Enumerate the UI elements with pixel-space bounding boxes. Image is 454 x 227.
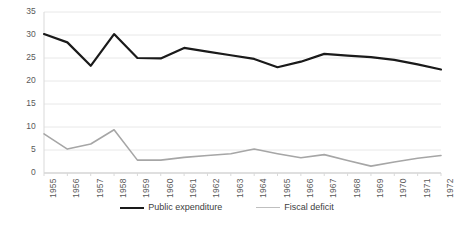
legend-item[interactable]: Fiscal deficit xyxy=(256,203,334,212)
legend-label: Fiscal deficit xyxy=(284,203,334,212)
series-line-fiscal-deficit xyxy=(44,130,441,166)
legend-line-swatch xyxy=(120,207,144,209)
series-line-public-expenditure xyxy=(44,34,441,69)
legend-item[interactable]: Public expenditure xyxy=(120,203,222,212)
legend-line-swatch xyxy=(256,207,280,208)
line-chart: 05101520253035 1955195619571958195919601… xyxy=(0,0,454,227)
legend-label: Public expenditure xyxy=(148,203,222,212)
chart-legend: Public expenditureFiscal deficit xyxy=(0,203,454,212)
plot-area xyxy=(0,0,454,227)
